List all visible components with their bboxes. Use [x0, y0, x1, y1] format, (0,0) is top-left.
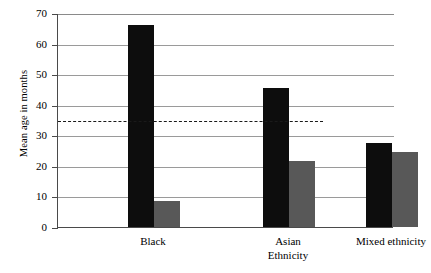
- gridline: [58, 75, 394, 76]
- bar: [289, 161, 315, 227]
- bar: [263, 88, 289, 227]
- bar: [366, 143, 392, 227]
- y-axis-tick: [52, 106, 58, 107]
- plot-area: [57, 14, 393, 228]
- x-axis-category-label: Asian: [228, 235, 348, 247]
- gridline: [58, 197, 394, 198]
- gridline: [58, 167, 394, 168]
- bar: [154, 201, 180, 227]
- y-axis-tick: [52, 197, 58, 198]
- bar: [392, 152, 418, 227]
- y-axis-tick-label: 40: [7, 100, 47, 111]
- y-axis-tick-label: 60: [7, 39, 47, 50]
- y-axis-tick: [52, 14, 58, 15]
- y-axis-tick-label: 0: [7, 222, 47, 233]
- y-axis-tick: [52, 136, 58, 137]
- gridline: [58, 14, 394, 15]
- y-axis-tick-label: 20: [7, 161, 47, 172]
- y-axis-tick-label: 30: [7, 130, 47, 141]
- x-axis-category-label: Mixed ethnicity: [331, 235, 431, 247]
- x-axis-category-label: Black: [93, 235, 213, 247]
- y-axis-tick: [52, 75, 58, 76]
- y-axis-tick-label: 70: [7, 8, 47, 19]
- bar: [128, 25, 154, 227]
- y-axis-tick: [52, 45, 58, 46]
- gridline: [58, 136, 394, 137]
- gridline: [58, 106, 394, 107]
- y-axis-tick: [52, 228, 58, 229]
- reference-line: [58, 121, 323, 122]
- y-axis-tick-label: 10: [7, 191, 47, 202]
- gridline: [58, 45, 394, 46]
- y-axis-tick: [52, 167, 58, 168]
- x-axis-title: Ethnicity: [228, 249, 348, 261]
- y-axis-tick-label: 50: [7, 69, 47, 80]
